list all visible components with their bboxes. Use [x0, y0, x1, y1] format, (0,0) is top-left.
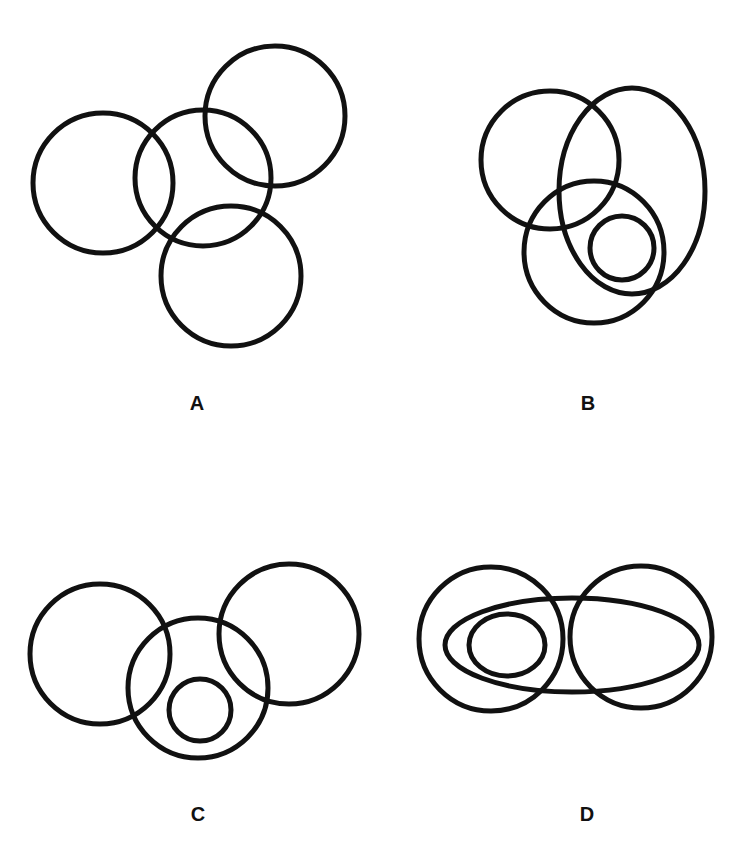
panel-label-b: B: [581, 392, 595, 414]
venn-diagram-canvas: A B C D: [0, 0, 752, 861]
panel-d: [419, 566, 712, 711]
panel-label-c: C: [191, 803, 205, 825]
ellipse-shape-d-4: [469, 614, 545, 676]
circle-shape-c-1: [30, 584, 170, 724]
circle-shape-b-4: [590, 216, 654, 280]
panel-a: [33, 46, 345, 346]
circle-shape-a-2: [135, 110, 271, 246]
panel-b: [481, 88, 705, 323]
panel-c: [30, 564, 359, 758]
circle-shape-a-4: [161, 206, 301, 346]
panel-label-a: A: [190, 392, 204, 414]
panel-label-d: D: [580, 803, 594, 825]
circle-shape-b-1: [481, 91, 619, 229]
ellipse-shape-b-3: [524, 181, 664, 323]
circle-shape-c-4: [169, 679, 231, 741]
